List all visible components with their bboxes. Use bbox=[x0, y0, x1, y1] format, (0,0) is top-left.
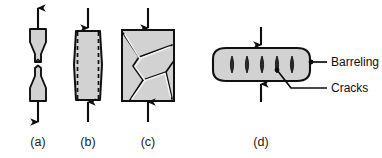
caption-b: (b) bbox=[80, 135, 95, 149]
caption-a: (a) bbox=[30, 135, 45, 149]
barreling-label: Barreling bbox=[331, 55, 379, 69]
figure-canvas: (a) (b) bbox=[0, 0, 382, 158]
crack-2 bbox=[245, 56, 248, 73]
crack-5 bbox=[290, 56, 293, 73]
figure-background bbox=[0, 0, 382, 158]
crack-3 bbox=[260, 56, 263, 73]
crack-1 bbox=[230, 56, 233, 73]
caption-d: (d) bbox=[253, 135, 268, 149]
failure-modes-figure: (a) (b) bbox=[0, 0, 382, 158]
specimen-c-body bbox=[122, 30, 174, 101]
cracks-label: Cracks bbox=[331, 81, 368, 95]
caption-c: (c) bbox=[141, 135, 156, 149]
